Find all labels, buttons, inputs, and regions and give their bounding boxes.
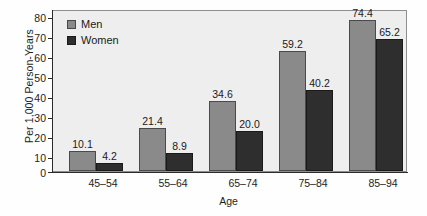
x-tick-label: 65–74	[208, 177, 278, 189]
y-tick-label: 60	[22, 53, 46, 63]
bar-men: 74.4	[349, 20, 376, 171]
bar-value-women: 40.2	[309, 78, 329, 89]
x-tick-label: 55–64	[138, 177, 208, 189]
x-axis-title-wrap: Age	[0, 195, 427, 207]
y-tick-label: 40	[22, 93, 46, 103]
bar-value-men: 21.4	[142, 116, 162, 127]
bar-value-women: 8.9	[172, 141, 187, 152]
bar-men: 10.1	[69, 151, 96, 172]
bar-group: 34.6 20.0	[209, 11, 266, 171]
x-tick-label: 45–54	[68, 177, 138, 189]
bar-women: 20.0	[236, 131, 263, 172]
plot-area: Men Women 10.1 4.2 21.4	[52, 10, 407, 172]
bar-value-men: 59.2	[282, 39, 302, 50]
y-tick-label: 10	[22, 153, 46, 163]
bar-women: 4.2	[96, 163, 123, 172]
bar-men: 34.6	[209, 101, 236, 171]
x-tick-label: 75–84	[278, 177, 348, 189]
bar-value-women: 65.2	[379, 27, 399, 38]
bar-group: 74.4 65.2	[349, 11, 406, 171]
x-axis-line	[52, 172, 408, 173]
bar-value-women: 4.2	[102, 151, 117, 162]
plot-surface: Men Women 10.1 4.2 21.4	[53, 11, 406, 171]
x-tick-label: 85–94	[348, 177, 418, 189]
bar-men: 59.2	[279, 51, 306, 171]
bar-value-women: 20.0	[239, 119, 259, 130]
y-tick-label: 20	[22, 133, 46, 143]
bar-women: 65.2	[376, 39, 403, 171]
y-axis-tick-labels: 80 70 60 50 40 30 20 10 0	[22, 0, 46, 216]
y-axis-line	[52, 10, 53, 173]
x-axis-title: Age	[219, 195, 238, 207]
y-tick-label: 80	[22, 13, 46, 23]
bar-women: 8.9	[166, 153, 193, 171]
bar-chart-figure: Per 1,000 Person-Years 80 70 60 50 40 30…	[0, 0, 427, 216]
bar-value-men: 74.4	[352, 8, 372, 19]
bar-value-men: 10.1	[72, 139, 92, 150]
y-tick-label: 0	[22, 168, 46, 178]
y-tick-label: 70	[22, 33, 46, 43]
y-tick-label: 50	[22, 73, 46, 83]
bar-value-men: 34.6	[212, 89, 232, 100]
bar-group: 21.4 8.9	[139, 11, 196, 171]
bar-group: 59.2 40.2	[279, 11, 336, 171]
bar-women: 40.2	[306, 90, 333, 171]
bar-group: 10.1 4.2	[69, 11, 126, 171]
bar-men: 21.4	[139, 128, 166, 171]
y-tick-label: 30	[22, 113, 46, 123]
